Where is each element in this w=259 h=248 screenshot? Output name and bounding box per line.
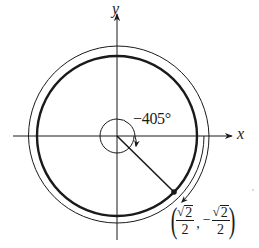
x-coordinate-fraction: √2 2 <box>176 204 194 237</box>
x-denominator: 2 <box>182 221 189 237</box>
close-paren: ) <box>228 202 235 238</box>
terminal-point-coordinates: ( √2 2 , − √2 2 ) <box>173 201 233 239</box>
sqrt-icon: √ <box>213 204 220 219</box>
y-numerator: √2 <box>212 204 230 221</box>
y-radicand: 2 <box>220 205 229 219</box>
y-denominator: 2 <box>217 221 224 237</box>
y-axis-label: y <box>112 0 119 18</box>
rotation-spiral-arc <box>29 46 210 223</box>
scan-speck <box>252 189 254 191</box>
y-sign: − <box>203 212 211 228</box>
y-coordinate-fraction: √2 2 <box>212 204 230 237</box>
terminal-ray <box>117 136 174 192</box>
terminal-point <box>171 189 177 195</box>
coordinate-separator: , <box>196 216 200 232</box>
sqrt-icon: √ <box>177 204 184 219</box>
angle-label: −405° <box>133 110 171 128</box>
x-radicand: 2 <box>184 205 193 219</box>
open-paren: ( <box>171 202 178 238</box>
x-axis-label: x <box>237 125 244 143</box>
x-numerator: √2 <box>176 204 194 221</box>
